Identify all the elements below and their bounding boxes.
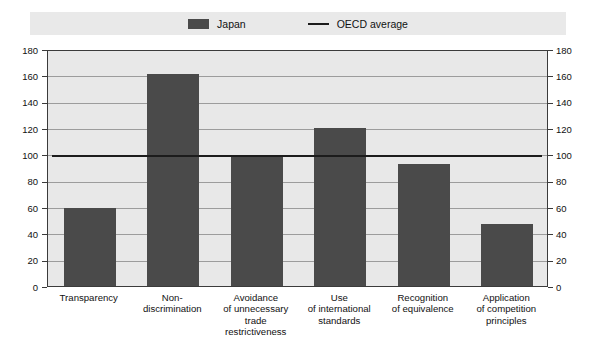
- y-axis-left-tick-80: 80: [6, 177, 38, 187]
- x-axis-label-2: Avoidanceof unnecessarytraderestrictiven…: [214, 292, 298, 338]
- y-axis-right-tick-0: 0: [556, 283, 590, 293]
- y-axis-right-tick-60: 60: [556, 204, 590, 214]
- y-axis-right-tick-80: 80: [556, 177, 590, 187]
- gridline-180: [48, 50, 547, 51]
- y-axis-left-tick-120: 120: [6, 125, 38, 135]
- y-axis-left-tick-60: 60: [6, 204, 38, 214]
- y-axis-right-tickmark-80: [548, 182, 553, 183]
- line-swatch-icon: [308, 23, 329, 25]
- oecd-average-line: [52, 155, 542, 157]
- y-axis-left-tick-40: 40: [6, 230, 38, 240]
- y-axis-right-tick-20: 20: [556, 256, 590, 266]
- y-axis-left-tick-20: 20: [6, 256, 38, 266]
- y-axis-right-tickmark-180: [548, 50, 553, 51]
- x-axis-label-1: Non-discrimination: [131, 292, 215, 315]
- y-axis-right-tickmark-40: [548, 234, 553, 235]
- bar-3: [314, 128, 366, 286]
- y-axis-left-tick-100: 100: [6, 151, 38, 161]
- gridline-60: [48, 208, 547, 209]
- bar-5: [481, 224, 533, 286]
- gridline-80: [48, 182, 547, 183]
- x-axis-label-3: Useof internationalstandards: [298, 292, 382, 326]
- y-axis-right-tickmark-100: [548, 155, 553, 156]
- legend-label-japan: Japan: [217, 18, 246, 30]
- x-axis-label-4: Recognitionof equivalence: [381, 292, 465, 315]
- y-axis-left-tick-160: 160: [6, 72, 38, 82]
- gridline-40: [48, 234, 547, 235]
- plot-area: [47, 50, 548, 287]
- legend-item-oecd-average: OECD average: [308, 18, 408, 30]
- y-axis-left-tickmark-0: [42, 287, 47, 288]
- bar-0: [64, 208, 116, 286]
- y-axis-right-tickmark-0: [548, 287, 553, 288]
- gridline-140: [48, 103, 547, 104]
- y-axis-right-tick-180: 180: [556, 46, 590, 56]
- y-axis-right-tick-40: 40: [556, 230, 590, 240]
- chart-legend: Japan OECD average: [30, 12, 566, 35]
- y-axis-right-tickmark-160: [548, 76, 553, 77]
- y-axis-left-tick-180: 180: [6, 46, 38, 56]
- bar-swatch-icon: [188, 19, 209, 29]
- x-axis-label-0: Transparency: [47, 292, 131, 303]
- y-axis-right-tick-140: 140: [556, 98, 590, 108]
- gridline-160: [48, 76, 547, 77]
- bar-2: [231, 157, 283, 286]
- y-axis-right-tick-100: 100: [556, 151, 590, 161]
- y-axis-left-tick-140: 140: [6, 98, 38, 108]
- gridline-20: [48, 261, 547, 262]
- legend-label-oecd-average: OECD average: [337, 18, 408, 30]
- bar-1: [147, 74, 199, 286]
- bar-chart: Japan OECD average 180 160 140 120 100 8…: [0, 0, 595, 339]
- gridline-120: [48, 129, 547, 130]
- y-axis-left-tick-0: 0: [6, 283, 38, 293]
- bar-4: [398, 164, 450, 286]
- legend-item-japan: Japan: [188, 18, 246, 30]
- y-axis-right-tickmark-120: [548, 129, 553, 130]
- y-axis-right-tickmark-140: [548, 103, 553, 104]
- y-axis-right-tickmark-20: [548, 261, 553, 262]
- y-axis-right-tickmark-60: [548, 208, 553, 209]
- y-axis-right-tick-120: 120: [556, 125, 590, 135]
- y-axis-right-tick-160: 160: [556, 72, 590, 82]
- x-axis-label-5: Applicationof competitionprinciples: [465, 292, 549, 326]
